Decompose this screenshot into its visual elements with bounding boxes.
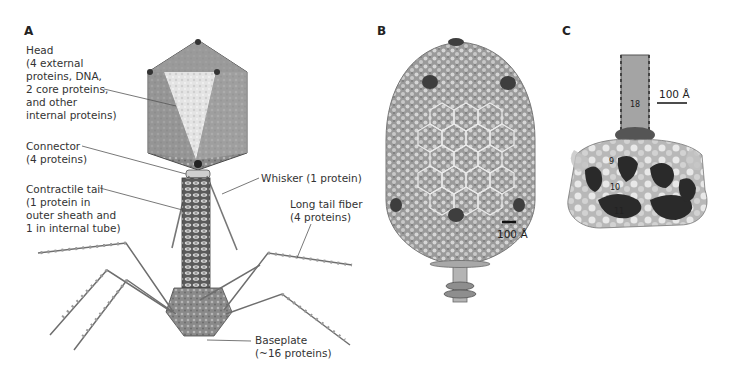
- tail-tube: [621, 55, 649, 133]
- whisker-right: [207, 176, 237, 250]
- label-head: Head (4 external proteins, DNA, 2 core p…: [26, 44, 117, 122]
- protein-number-10: 10: [610, 183, 620, 192]
- label-contractile-tail: Contractile tail (1 protein in outer she…: [26, 183, 121, 235]
- panel-letter-b: B: [377, 24, 386, 38]
- capsid-reconstruction: [386, 38, 535, 302]
- label-long-tail-fiber: Long tail fiber (4 proteins): [290, 198, 363, 224]
- panel-letter-c: C: [562, 24, 571, 38]
- protein-number-18: 18: [630, 100, 640, 109]
- label-connector: Connector (4 proteins): [26, 140, 87, 166]
- contractile-tail: [182, 178, 210, 288]
- label-whisker: Whisker (1 protein): [261, 172, 362, 185]
- protein-number-9: 9: [609, 157, 614, 166]
- baseplate: [166, 288, 232, 336]
- baseplate-reconstruction: [568, 55, 707, 228]
- scale-label-b: 100 Å: [497, 228, 528, 240]
- panel-letter-a: A: [24, 24, 33, 38]
- phage-head: [147, 39, 247, 170]
- label-baseplate: Baseplate (~16 proteins): [255, 334, 331, 360]
- scale-label-c: 100 Å: [659, 88, 690, 100]
- protein-number-11: 11: [614, 207, 624, 216]
